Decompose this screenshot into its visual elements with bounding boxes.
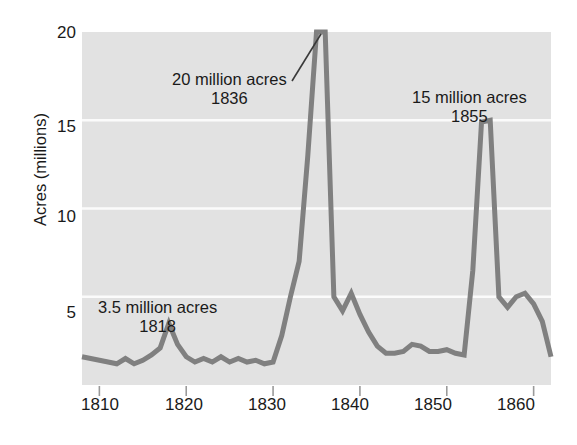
annotation-1818-year: 1818: [98, 317, 217, 336]
annotation-1855-amount: 15 million acres: [412, 88, 527, 106]
annotation-peak-1818: 3.5 million acres 1818: [98, 298, 217, 336]
annotation-1836-year: 1836: [172, 89, 287, 108]
line-chart: Acres (millions) 20 15 10 5 1810 1820 18…: [0, 0, 577, 445]
annotation-peak-1836: 20 million acres 1836: [172, 70, 287, 108]
annotation-1818-amount: 3.5 million acres: [98, 298, 217, 316]
plot-area: [0, 0, 577, 445]
x-axis-tick-marks: [99, 386, 533, 396]
annotation-1855-year: 1855: [412, 107, 527, 126]
annotation-peak-1855: 15 million acres 1855: [412, 88, 527, 126]
annotation-1836-amount: 20 million acres: [172, 70, 287, 88]
